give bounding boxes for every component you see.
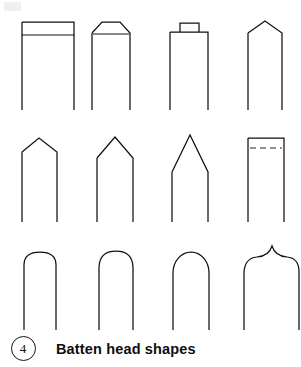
shape-square-flat-head bbox=[22, 22, 74, 110]
shape-low-pitched-gable-head bbox=[22, 138, 57, 222]
shape-shallow-rounded-head bbox=[24, 252, 56, 330]
shape-segmental-arch-head bbox=[99, 251, 133, 330]
batten-head-shapes-diagram bbox=[0, 0, 301, 330]
shape-steep-pitched-gable-head bbox=[172, 135, 208, 222]
shape-semicircular-arch-head bbox=[173, 252, 209, 330]
shape-ogee-point-head bbox=[244, 246, 299, 330]
shape-shallow-gable-head bbox=[248, 21, 282, 110]
figure-number: 4 bbox=[11, 336, 36, 361]
shape-flat-head-dashed-line bbox=[248, 138, 284, 222]
figure-caption: 4 Batten head shapes bbox=[0, 330, 301, 367]
figure-number-badge: 4 bbox=[0, 336, 46, 361]
shape-medium-pitched-gable-head bbox=[97, 137, 133, 222]
figure-caption-text: Batten head shapes bbox=[56, 341, 196, 357]
shape-raised-tab-head bbox=[170, 23, 208, 110]
shape-chamfered-head bbox=[92, 22, 130, 110]
figure-container: 4 Batten head shapes bbox=[0, 0, 301, 367]
